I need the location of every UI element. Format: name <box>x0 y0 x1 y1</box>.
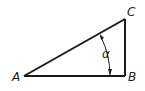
vertex-label-a: A <box>11 70 20 84</box>
arrowhead-top-icon <box>100 34 104 40</box>
vertex-label-c: C <box>127 5 136 19</box>
angle-label-alpha: α <box>102 47 110 61</box>
arrowhead-bottom-icon <box>108 69 112 75</box>
triangle-diagram: A B C α <box>0 0 145 91</box>
vertex-label-b: B <box>128 70 136 84</box>
